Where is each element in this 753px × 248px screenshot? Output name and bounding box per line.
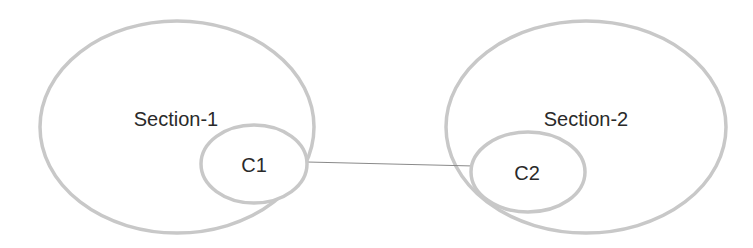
diagram-canvas: Section-1 Section-2 C1 C2: [0, 0, 753, 248]
c2-group: C2: [471, 132, 585, 212]
c1-group: C1: [201, 125, 307, 203]
c2-label: C2: [514, 162, 540, 184]
section-1-label: Section-1: [134, 108, 219, 130]
c1-c2-connector[interactable]: [307, 162, 474, 166]
section-2-label: Section-2: [544, 108, 629, 130]
c1-label: C1: [241, 154, 267, 176]
